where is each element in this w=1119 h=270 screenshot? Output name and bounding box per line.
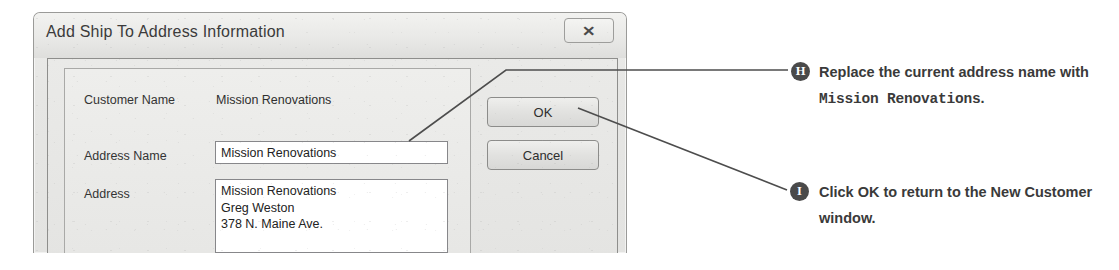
leader-line-i xyxy=(578,108,787,190)
callout-badge-h: H xyxy=(791,62,810,81)
callout-badge-i: I xyxy=(790,182,809,201)
callout-text-i: Click OK to return to the New Customer w… xyxy=(819,180,1119,232)
callout-badge-i-letter: I xyxy=(797,185,802,198)
callout-h-text-mono: Mission Renovations xyxy=(819,91,981,107)
callout-h-text-before: Replace the current address name with xyxy=(819,64,1089,80)
screenshot-root: Add Ship To Address Information ✕ Custom… xyxy=(0,0,1119,270)
callout-text-h: Replace the current address name with Mi… xyxy=(819,60,1119,112)
callout-h-text-after: . xyxy=(981,90,985,106)
leader-line-h xyxy=(409,70,788,141)
callout-i-text-before: Click OK to return to the New Customer w… xyxy=(819,184,1092,226)
callout-badge-h-letter: H xyxy=(796,65,806,78)
